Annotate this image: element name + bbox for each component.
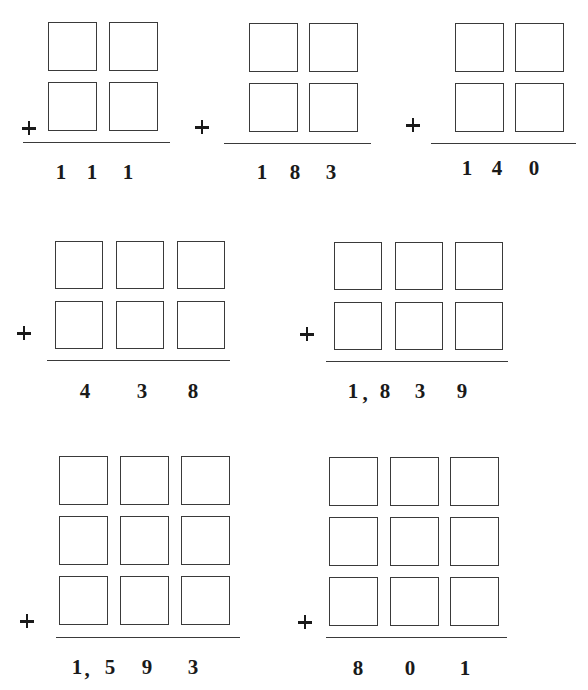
sum-digit: 9 <box>142 657 153 678</box>
sum-divider-line <box>431 143 576 144</box>
digit-box-row2-col2[interactable] <box>109 82 158 131</box>
sum-digit: 1 <box>56 162 67 183</box>
digit-box-row1-col1[interactable] <box>59 456 108 505</box>
digit-box-row2-col2[interactable] <box>395 302 443 350</box>
digit-box-row2-col3[interactable] <box>177 301 225 349</box>
digit-box-row2-col3[interactable] <box>181 516 230 565</box>
digit-box-row2-col2[interactable] <box>515 83 564 132</box>
sum-digit: 3 <box>188 657 199 678</box>
plus-sign-icon <box>298 615 312 629</box>
digit-box-row1-col1[interactable] <box>455 23 504 72</box>
digit-box-row1-col2[interactable] <box>109 22 158 71</box>
sum-digit: 1 <box>72 657 83 678</box>
plus-sign-icon <box>20 614 34 628</box>
digit-box-row2-col2[interactable] <box>116 301 164 349</box>
digit-box-row2-col2[interactable] <box>309 83 358 132</box>
sum-digit: 8 <box>380 381 391 402</box>
sum-digit: 8 <box>290 162 301 183</box>
digit-box-row2-col1[interactable] <box>59 516 108 565</box>
digit-box-row3-col2[interactable] <box>390 577 439 626</box>
digit-box-row2-col1[interactable] <box>249 83 298 132</box>
digit-box-row1-col1[interactable] <box>334 242 382 290</box>
digit-box-row2-col1[interactable] <box>455 83 504 132</box>
sum-digit: 1 <box>87 162 98 183</box>
digit-box-row3-col3[interactable] <box>450 577 499 626</box>
sum-digit: 0 <box>529 158 540 179</box>
plus-sign-icon <box>195 120 209 134</box>
sum-digit: 3 <box>326 162 337 183</box>
sum-divider-line <box>56 637 240 638</box>
digit-box-row1-col3[interactable] <box>181 456 230 505</box>
sum-digit: 1 <box>460 658 471 679</box>
sum-digit: 5 <box>105 657 116 678</box>
thousands-comma: , <box>362 383 367 404</box>
sum-divider-line <box>326 361 508 362</box>
digit-box-row1-col2[interactable] <box>390 457 439 506</box>
digit-box-row3-col2[interactable] <box>120 576 169 625</box>
plus-sign-icon <box>300 327 314 341</box>
sum-divider-line <box>326 637 507 638</box>
plus-sign-icon <box>406 118 420 132</box>
digit-box-row1-col1[interactable] <box>249 23 298 72</box>
digit-box-row1-col3[interactable] <box>455 242 503 290</box>
digit-box-row2-col1[interactable] <box>334 302 382 350</box>
digit-box-row3-col1[interactable] <box>329 577 378 626</box>
sum-digit: 1 <box>123 162 134 183</box>
digit-box-row1-col3[interactable] <box>177 241 225 289</box>
sum-digit: 4 <box>80 381 91 402</box>
sum-digit: 9 <box>457 381 468 402</box>
sum-divider-line <box>23 142 170 143</box>
sum-digit: 1 <box>462 158 473 179</box>
digit-box-row2-col2[interactable] <box>390 517 439 566</box>
digit-box-row1-col2[interactable] <box>116 241 164 289</box>
digit-box-row2-col3[interactable] <box>455 302 503 350</box>
plus-sign-icon <box>22 121 36 135</box>
digit-box-row1-col1[interactable] <box>48 22 97 71</box>
digit-box-row2-col1[interactable] <box>329 517 378 566</box>
digit-box-row3-col3[interactable] <box>181 576 230 625</box>
digit-box-row1-col3[interactable] <box>450 457 499 506</box>
digit-box-row1-col1[interactable] <box>329 457 378 506</box>
sum-digit: 0 <box>405 658 416 679</box>
digit-box-row2-col2[interactable] <box>120 516 169 565</box>
sum-digit: 1 <box>348 381 359 402</box>
plus-sign-icon <box>17 326 31 340</box>
digit-box-row1-col2[interactable] <box>309 23 358 72</box>
digit-box-row2-col3[interactable] <box>450 517 499 566</box>
sum-digit: 3 <box>137 381 148 402</box>
sum-digit: 1 <box>257 162 268 183</box>
sum-digit: 8 <box>188 381 199 402</box>
digit-box-row1-col1[interactable] <box>55 241 103 289</box>
digit-box-row2-col1[interactable] <box>48 82 97 131</box>
sum-digit: 4 <box>492 158 503 179</box>
digit-box-row1-col2[interactable] <box>120 456 169 505</box>
sum-digit: 8 <box>353 658 364 679</box>
digit-box-row3-col1[interactable] <box>59 576 108 625</box>
thousands-comma: , <box>84 659 89 680</box>
sum-digit: 3 <box>415 381 426 402</box>
digit-box-row1-col2[interactable] <box>395 242 443 290</box>
digit-box-row2-col1[interactable] <box>55 301 103 349</box>
sum-divider-line <box>224 143 371 144</box>
sum-divider-line <box>47 360 230 361</box>
digit-box-row1-col2[interactable] <box>515 23 564 72</box>
